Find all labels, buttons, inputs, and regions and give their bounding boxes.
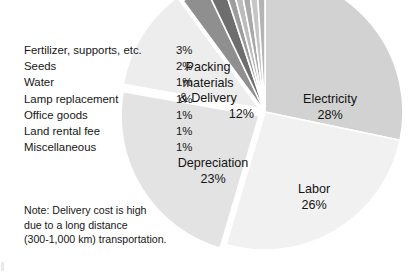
note-line: due to a long distance xyxy=(24,218,214,233)
legend-row-label: Seeds xyxy=(24,58,56,74)
legend-row-label: Fertilizer, supports, etc. xyxy=(24,42,142,58)
slice-label-depreciation-percent: 23% xyxy=(158,172,268,188)
legend-row: Miscellaneous1% xyxy=(24,139,202,155)
legend-row-value: 2% xyxy=(176,58,202,74)
legend-row: Land rental fee1% xyxy=(24,123,202,139)
corner-mark xyxy=(1,262,4,271)
legend-row-label: Water xyxy=(24,74,54,90)
legend-row-value: 1% xyxy=(176,74,202,90)
legend-row-label: Office goods xyxy=(24,107,88,123)
slice-label-depreciation-name: Depreciation xyxy=(158,156,268,172)
slice-label-labor: Labor 26% xyxy=(278,182,350,213)
legend-row-label: Miscellaneous xyxy=(24,139,96,155)
note-block: Note: Delivery cost is highdue to a long… xyxy=(24,203,214,247)
slice-label-labor-percent: 26% xyxy=(278,198,350,214)
legend-row-label: Land rental fee xyxy=(24,123,100,139)
slice-label-electricity-percent: 28% xyxy=(282,108,378,124)
note-line: Note: Delivery cost is high xyxy=(24,203,214,218)
legend-row: Water1% xyxy=(24,74,202,90)
slice-label-depreciation: Depreciation 23% xyxy=(158,156,268,187)
legend-row-value: 3% xyxy=(176,42,202,58)
legend-row-value: 1% xyxy=(176,123,202,139)
slice-label-labor-name: Labor xyxy=(278,182,350,198)
pie-chart-figure: Packing materials & Delivery 12% Electri… xyxy=(0,0,418,274)
legend-row: Office goods1% xyxy=(24,107,202,123)
legend-row-value: 1% xyxy=(176,91,202,107)
legend-row-value: 1% xyxy=(176,139,202,155)
legend-row-value: 1% xyxy=(176,107,202,123)
slice-label-electricity: Electricity 28% xyxy=(282,92,378,123)
slice-label-electricity-name: Electricity xyxy=(282,92,378,108)
legend-row-label: Lamp replacement xyxy=(24,91,118,107)
legend-row: Seeds2% xyxy=(24,58,202,74)
note-line: (300-1,000 km) transportation. xyxy=(24,232,214,247)
legend-row: Fertilizer, supports, etc.3% xyxy=(24,42,202,58)
legend-list: Fertilizer, supports, etc.3%Seeds2%Water… xyxy=(24,42,202,155)
legend-row: Lamp replacement1% xyxy=(24,91,202,107)
pie-slice xyxy=(256,0,265,112)
